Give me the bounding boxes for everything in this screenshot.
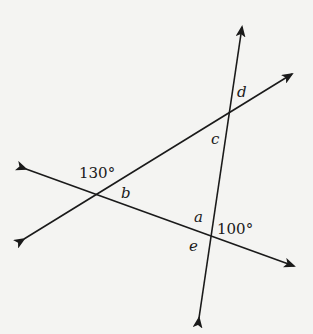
angle-c-label: c (211, 130, 220, 148)
falling-line (26, 169, 294, 266)
rising-line (24, 74, 292, 239)
angle-e-label: e (189, 237, 198, 255)
angle-b-label: b (121, 184, 131, 202)
angle-a-label: a (194, 208, 203, 226)
angle-130-label: 130° (79, 164, 115, 182)
angle-100-label: 100° (217, 220, 253, 238)
angle-diagram: 130° b a 100° e c d (0, 0, 313, 334)
steep-line (199, 27, 242, 318)
angle-d-label: d (237, 83, 247, 101)
